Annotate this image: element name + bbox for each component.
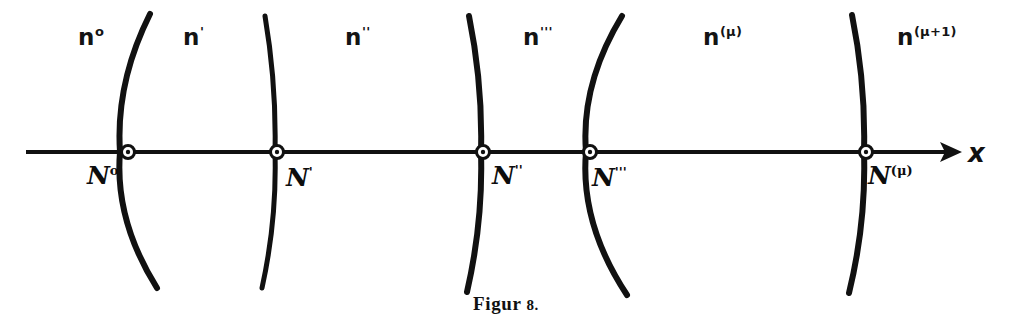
node-N-2-marker xyxy=(477,146,490,159)
node-N-0-label: No xyxy=(87,163,119,188)
region-label-base: n xyxy=(703,24,720,50)
figure-container: non'n''n'''n(μ)n(μ+1) NoN'N''N'''N(μ) x … xyxy=(0,0,1012,333)
node-label-base: N xyxy=(87,161,110,190)
region-label-superscript: ' xyxy=(200,24,204,39)
region-label-superscript: o xyxy=(95,24,104,39)
region-label-base: n xyxy=(78,24,95,50)
node-label-superscript: ' xyxy=(309,165,313,180)
region-n-0: no xyxy=(78,25,104,49)
region-label-base: n xyxy=(183,24,200,50)
node-dot-icon xyxy=(864,150,868,154)
wavefront-curves-group xyxy=(119,14,864,295)
region-label-superscript: '' xyxy=(362,24,371,39)
axis-group xyxy=(26,142,962,162)
region-label-base: n xyxy=(523,24,540,50)
region-n-mu-1: n(μ+1) xyxy=(897,25,957,49)
node-label-superscript: ''' xyxy=(615,165,627,180)
node-N-3-label: N''' xyxy=(592,165,627,190)
axis-label-x: x xyxy=(968,140,985,166)
region-label-base: n xyxy=(897,24,914,50)
node-N-3-marker xyxy=(584,146,597,159)
node-dot-icon xyxy=(275,150,279,154)
region-label-base: n xyxy=(345,24,362,50)
region-n-3: n''' xyxy=(523,25,553,49)
figure-caption: Figur 8. xyxy=(0,293,1012,315)
node-label-superscript: '' xyxy=(515,163,523,178)
node-dot-icon xyxy=(588,150,592,154)
region-n-mu: n(μ) xyxy=(703,25,742,49)
region-label-superscript: ''' xyxy=(540,24,553,39)
node-label-base: N xyxy=(868,161,891,190)
node-N-0-marker xyxy=(122,146,135,159)
node-label-base: N xyxy=(492,161,515,190)
node-label-superscript: o xyxy=(110,163,119,178)
node-N-mu-label: N(μ) xyxy=(868,163,913,188)
node-label-base: N xyxy=(592,163,615,192)
node-dot-icon xyxy=(126,150,130,154)
node-N-mu-marker xyxy=(860,146,873,159)
region-n-2: n'' xyxy=(345,25,370,49)
node-N-1-marker xyxy=(271,146,284,159)
node-label-base: N xyxy=(286,163,309,192)
region-n-1: n' xyxy=(183,25,204,49)
figure-caption-text: Figur xyxy=(473,293,521,314)
node-dot-icon xyxy=(481,150,485,154)
figure-caption-number: 8. xyxy=(526,297,538,313)
region-label-superscript: (μ+1) xyxy=(914,24,957,39)
node-N-2-label: N'' xyxy=(492,163,523,188)
node-N-1-label: N' xyxy=(286,165,313,190)
region-label-superscript: (μ) xyxy=(720,24,742,39)
node-label-superscript: (μ) xyxy=(891,163,913,178)
